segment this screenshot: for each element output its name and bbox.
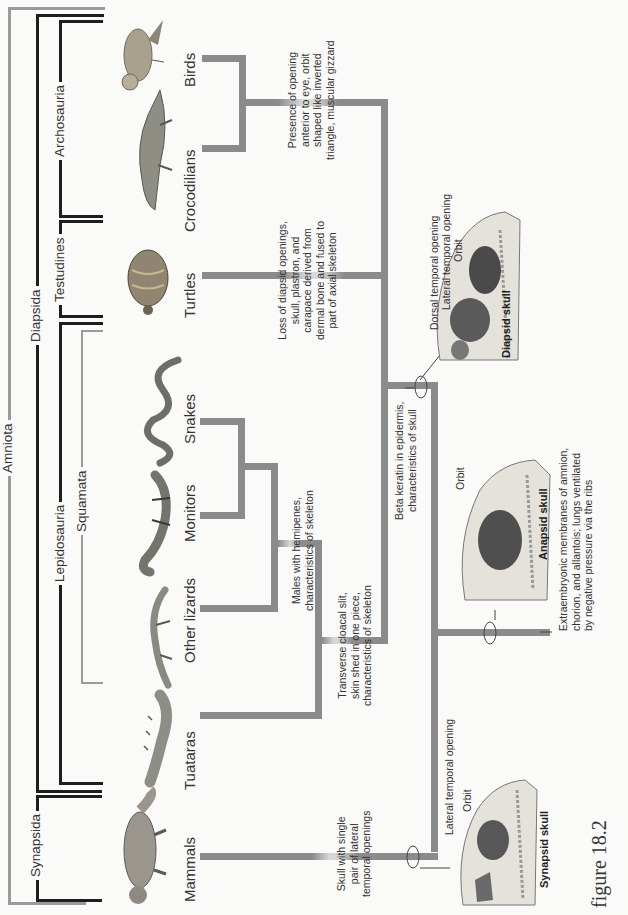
- diapsid-label-lateral: Lateral temporal opening: [440, 194, 452, 310]
- anapsid-skull-title: Anapsid skull: [537, 488, 549, 560]
- character-reptile: Beta keratin in epidermis, characteristi…: [393, 402, 418, 520]
- character-synapsid: Skull with single pair of lateral tempor…: [335, 811, 373, 897]
- anapsid-label-orbit: Orbit: [454, 467, 466, 490]
- character-turtle: Loss of diapsid openings, skull, plastro…: [276, 221, 339, 340]
- character-lepidosaur: Transverse cloacal slit, skin shed in on…: [336, 585, 374, 706]
- figure-label: figure 18.2: [588, 820, 611, 908]
- diapsid-label-orbit: Orbit: [452, 239, 464, 262]
- synapsid-skull-title: Synapsid skull: [538, 811, 550, 888]
- character-archosaur: Presence of opening anterior to eye, orb…: [286, 40, 336, 160]
- character-amniote: Extraembryonic membranes of amnion, chor…: [557, 448, 595, 631]
- synapsid-label-lateral: Lateral temporal opening: [443, 719, 455, 835]
- character-squamate: Males with hemipenes, characteristics of…: [290, 490, 315, 611]
- diapsid-skull-title: Diapsid skull: [500, 290, 512, 358]
- synapsid-label-orbit: Orbit: [461, 789, 473, 812]
- diapsid-label-dorsal: Dorsal temporal opening: [428, 216, 440, 330]
